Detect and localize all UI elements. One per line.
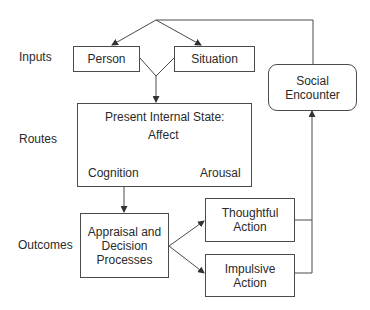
node-impulsive-action: Impulsive Action: [205, 254, 295, 297]
internal-state-arousal: Arousal: [200, 166, 241, 180]
row-label-inputs: Inputs: [19, 50, 52, 64]
node-impulsive-action-label: Impulsive Action: [218, 262, 282, 290]
internal-state-title: Present Internal State:: [105, 110, 224, 124]
node-social-encounter: Social Encounter: [268, 64, 357, 111]
node-social-encounter-label: Social Encounter: [279, 74, 346, 102]
node-person: Person: [73, 46, 140, 72]
row-label-routes: Routes: [19, 132, 57, 146]
node-situation: Situation: [174, 46, 255, 72]
arrow-to-thoughtful: [169, 221, 204, 246]
node-person-label: Person: [87, 52, 125, 66]
node-situation-label: Situation: [191, 52, 238, 66]
internal-state-affect: Affect: [148, 128, 178, 142]
diagram-canvas: Inputs Routes Outcomes Person Situation …: [0, 0, 370, 310]
arrow-to-impulsive: [169, 246, 204, 273]
node-appraisal: Appraisal and Decision Processes: [80, 213, 169, 278]
arrow-to-situation: [156, 20, 201, 45]
internal-state-cognition: Cognition: [88, 166, 139, 180]
node-appraisal-label: Appraisal and Decision Processes: [87, 225, 162, 267]
row-label-outcomes: Outcomes: [18, 238, 73, 252]
node-thoughtful-action-label: Thoughtful Action: [218, 206, 282, 234]
arrow-to-person: [112, 20, 156, 45]
node-thoughtful-action: Thoughtful Action: [205, 198, 295, 242]
